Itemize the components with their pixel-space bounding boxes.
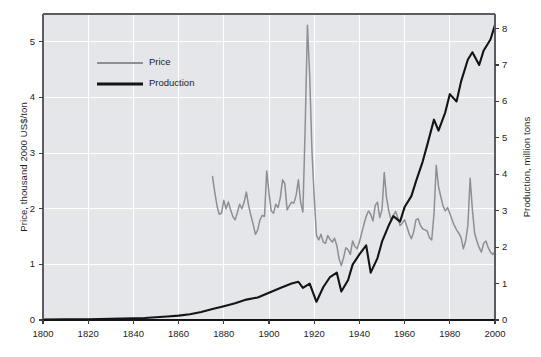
x-tick-label: 1960 (385, 328, 425, 339)
y-tick-label-left: 4 (11, 91, 35, 102)
legend-label-production: Production (149, 77, 194, 88)
x-tick-label: 1820 (68, 328, 108, 339)
y-tick-label-right: 5 (502, 132, 526, 143)
x-tick-label: 1900 (249, 328, 289, 339)
x-tick-label: 1980 (430, 328, 470, 339)
x-tick-label: 1860 (159, 328, 199, 339)
y-tick-label-right: 3 (502, 205, 526, 216)
y-tick-label-right: 7 (502, 59, 526, 70)
x-tick-label: 1940 (339, 328, 379, 339)
y-tick-label-left: 0 (11, 314, 35, 325)
y-tick-label-right: 0 (502, 314, 526, 325)
chart-plot-svg (0, 0, 541, 357)
y-tick-label-right: 2 (502, 241, 526, 252)
y-axis-left-title: Price, thousand 2000 US$/ton (18, 14, 32, 320)
x-tick-label: 1800 (23, 328, 63, 339)
x-tick-label: 2000 (475, 328, 515, 339)
legend-label-price: Price (149, 56, 171, 67)
chart-figure: Price, thousand 2000 US$/ton Production,… (0, 0, 541, 357)
x-tick-label: 1840 (113, 328, 153, 339)
x-tick-label: 1880 (204, 328, 244, 339)
y-tick-label-right: 8 (502, 23, 526, 34)
y-tick-label-left: 1 (11, 258, 35, 269)
y-tick-label-right: 4 (502, 168, 526, 179)
y-tick-label-right: 6 (502, 95, 526, 106)
y-tick-label-left: 2 (11, 203, 35, 214)
x-tick-label: 1920 (294, 328, 334, 339)
y-tick-label-left: 3 (11, 147, 35, 158)
y-tick-label-left: 5 (11, 36, 35, 47)
y-tick-label-right: 1 (502, 278, 526, 289)
